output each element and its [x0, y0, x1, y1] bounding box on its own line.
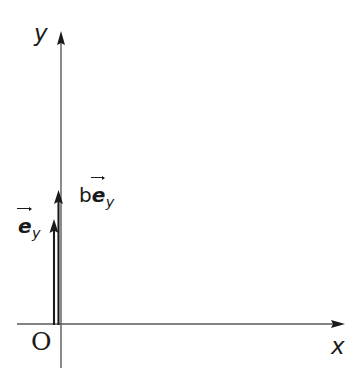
vector-bey-symbol: e	[92, 183, 106, 207]
vector-bey-scalar: b	[79, 183, 92, 207]
vector-diagram-canvas	[0, 0, 363, 378]
x-axis-label: x	[331, 335, 345, 358]
vector-ey-symbol: e	[18, 214, 32, 238]
vector-bey-subscript: y	[106, 194, 115, 210]
vector-ey-label: ey	[18, 214, 41, 241]
y-axis-label: y	[34, 22, 48, 45]
origin-label: O	[31, 329, 52, 354]
vector-ey-subscript: y	[32, 225, 41, 241]
vector-bey-label: bey	[79, 183, 114, 210]
